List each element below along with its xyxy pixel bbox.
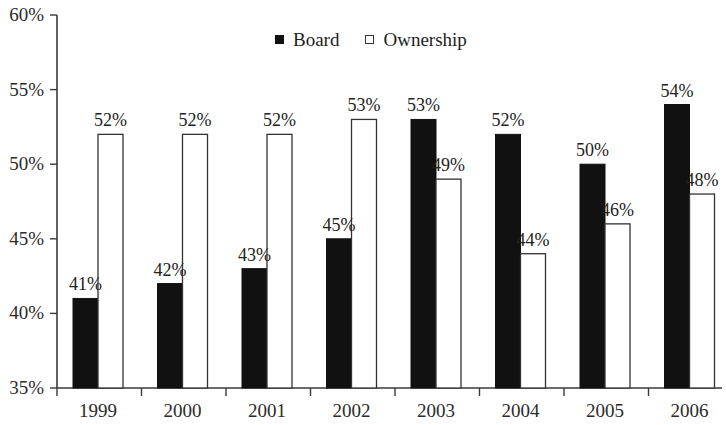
bar-board-1999	[73, 298, 98, 388]
chart-legend: Board Ownership	[275, 30, 467, 49]
bar-value-label: 44%	[507, 231, 559, 249]
bar-value-label: 52%	[169, 111, 221, 129]
legend-label-ownership: Ownership	[383, 30, 466, 49]
bar-chart: 35%40%45%50%55%60% 199920002001200220032…	[0, 0, 726, 425]
bar-board-2005	[580, 164, 605, 388]
x-axis-label-2003: 2003	[401, 401, 471, 420]
bar-value-label: 52%	[85, 111, 137, 129]
x-axis-label-2001: 2001	[232, 401, 302, 420]
x-axis-label-2004: 2004	[486, 401, 556, 420]
y-axis-tick-label: 55%	[0, 80, 44, 99]
bar-ownership-2004	[521, 254, 546, 388]
bar-value-label: 41%	[60, 275, 112, 293]
bar-value-label: 49%	[423, 156, 475, 174]
legend-label-board: Board	[293, 30, 339, 49]
bar-value-label: 46%	[592, 201, 644, 219]
bar-board-2004	[496, 134, 521, 388]
y-axis-tick-label: 40%	[0, 303, 44, 322]
bar-ownership-2003	[436, 179, 461, 388]
bar-value-label: 54%	[651, 82, 703, 100]
bar-value-label: 52%	[482, 111, 534, 129]
filled-square-icon	[275, 35, 284, 44]
bar-board-2002	[327, 239, 352, 388]
bar-board-2001	[242, 269, 267, 388]
bar-value-label: 43%	[229, 246, 281, 264]
bar-value-label: 53%	[398, 96, 450, 114]
bar-value-label: 50%	[567, 141, 619, 159]
bar-value-label: 42%	[144, 261, 196, 279]
bar-ownership-2005	[605, 224, 630, 388]
y-axis-tick-label: 50%	[0, 154, 44, 173]
x-axis-label-2002: 2002	[317, 401, 387, 420]
y-axis-tick-label: 35%	[0, 378, 44, 397]
x-axis-label-1999: 1999	[63, 401, 133, 420]
y-axis-tick-label: 45%	[0, 229, 44, 248]
legend-entry-board: Board	[275, 30, 339, 49]
y-axis-tick-label: 60%	[0, 5, 44, 24]
bar-ownership-2006	[690, 194, 715, 388]
bar-value-label: 48%	[676, 171, 726, 189]
bar-board-2006	[665, 105, 690, 388]
x-axis-label-2005: 2005	[570, 401, 640, 420]
bar-value-label: 45%	[313, 216, 365, 234]
bar-value-label: 52%	[254, 111, 306, 129]
hollow-square-icon	[365, 35, 374, 44]
bar-ownership-1999	[98, 134, 123, 388]
x-axis-label-2006: 2006	[655, 401, 725, 420]
bar-ownership-2002	[352, 119, 377, 388]
x-axis-label-2000: 2000	[148, 401, 218, 420]
bar-board-2000	[158, 284, 183, 388]
bar-value-label: 53%	[338, 96, 390, 114]
legend-entry-ownership: Ownership	[365, 30, 466, 49]
